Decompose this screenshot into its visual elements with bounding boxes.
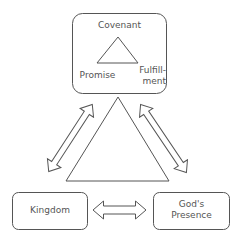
- promise-label: Promise: [75, 70, 120, 81]
- double-arrow-kingdom-presence: [93, 201, 146, 219]
- fulfillment-label-line1: Fulfill-: [139, 65, 166, 75]
- gods-presence-label: God's Presence: [153, 199, 230, 221]
- fulfillment-label-line2: ment: [142, 76, 166, 86]
- gods-presence-label-line1: God's: [179, 199, 204, 209]
- kingdom-label: Kingdom: [12, 205, 88, 216]
- gods-presence-label-line2: Presence: [171, 210, 212, 220]
- double-arrow-covenant-kingdom: [42, 100, 99, 176]
- fulfillment-label: Fulfill- ment: [122, 65, 166, 87]
- covenant-label: Covenant: [72, 20, 167, 31]
- covenant-inner-triangle: [97, 37, 138, 63]
